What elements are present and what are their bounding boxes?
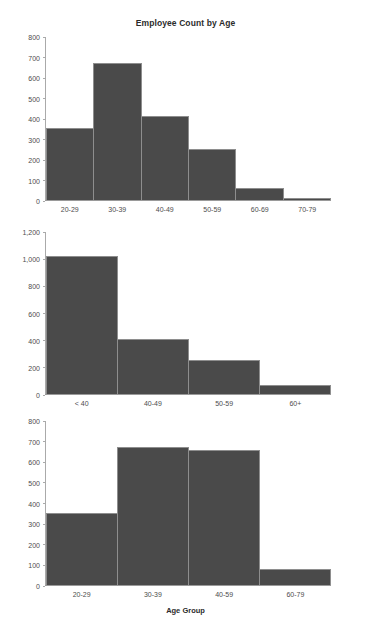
chart-2-x-tick-label: 60+ [260,400,331,407]
chart-3-bar-30-39 [117,447,189,585]
chart-2-x-tick-label: < 40 [46,400,117,407]
chart-1-bar-50-59 [188,149,236,200]
chart-1-bar-60-69 [235,188,283,200]
chart-3-x-tick-labels: 20-2930-3940-5960-79 [46,591,331,598]
chart-1-bars [46,37,331,200]
chart-1-title: Employee Count by Age [0,18,371,28]
chart-2-x-axis [45,394,331,395]
chart-3-x-tick-label: 20-29 [46,591,117,598]
chart-1-y-tick-label: 500 [5,95,45,102]
chart-2-bar-< 40 [46,256,118,394]
chart-2-y-tick-label: 400 [5,337,45,344]
chart-3-bars [46,421,331,585]
chart-1-x-tick-label: 30-39 [94,206,142,213]
chart-2-y-tick-label: 200 [5,364,45,371]
chart-1-y-tick-label: 200 [5,157,45,164]
chart-2-bar-60+ [259,385,331,394]
chart-1-x-tick-label: 40-49 [141,206,189,213]
chart-1-x-tick-label: 70-79 [284,206,332,213]
chart-2-y-tick-label: 1,000 [5,256,45,263]
chart-3-y-tick-label: 300 [5,521,45,528]
chart-1-plot-area: 0100200300400500600700800 [45,37,331,201]
chart-3-y-tick-label: 400 [5,500,45,507]
chart-1-y-tick-label: 700 [5,54,45,61]
chart-1-x-tick-labels: 20-2930-3940-4950-5960-6970-79 [46,206,331,213]
chart-2-y-tick-label: 600 [5,310,45,317]
chart-3-y-tick-label: 600 [5,459,45,466]
chart-3-bar-40-59 [188,450,260,585]
chart-3-x-tick-label: 60-79 [260,591,331,598]
chart-1-bar-70-79 [283,198,331,200]
chart-1-bar-40-49 [141,116,189,200]
chart-1-bar-20-29 [46,128,94,200]
chart-1-x-tick-label: 50-59 [189,206,237,213]
chart-1-x-axis [45,200,331,201]
chart-2-bars [46,232,331,394]
chart-2-x-tick-label: 40-49 [117,400,188,407]
chart-1-y-tick-label: 100 [5,177,45,184]
chart-2-bar-40-49 [117,339,189,394]
chart-2-plot-area: 02004006008001,0001,200 [45,232,331,395]
chart-2-bar-50-59 [188,360,260,394]
chart-2-x-tick-label: 50-59 [189,400,260,407]
chart-1-y-tick-label: 400 [5,116,45,123]
chart-1-y-tick-label: 300 [5,136,45,143]
chart-2-y-tick-label: 1,200 [5,229,45,236]
chart-2-x-tick-labels: < 4040-4950-5960+ [46,400,331,407]
chart-2-y-tick-label: 0 [5,392,45,399]
chart-3-bar-20-29 [46,513,118,585]
chart-3-bar-60-79 [259,569,331,585]
chart-3-y-tick-label: 800 [5,418,45,425]
chart-3-y-tick-label: 0 [5,583,45,590]
chart-3-x-axis [45,585,331,586]
chart-2-y-tick-label: 800 [5,283,45,290]
chart-page: Employee Count by Age 010020030040050060… [0,0,371,642]
chart-3-x-tick-label: 30-39 [117,591,188,598]
chart-3-x-tick-label: 40-59 [189,591,260,598]
chart-3-y-tick-label: 100 [5,562,45,569]
chart-1-x-tick-label: 60-69 [236,206,284,213]
chart-3-y-tick-label: 500 [5,479,45,486]
chart-1-y-tick-label: 800 [5,34,45,41]
chart-3-x-axis-title: Age Group [0,606,371,615]
chart-1-bar-30-39 [93,63,141,200]
chart-3-y-tick-label: 200 [5,541,45,548]
chart-1-y-tick-label: 0 [5,198,45,205]
chart-3-y-tick-label: 700 [5,438,45,445]
chart-1-y-tick-label: 600 [5,75,45,82]
chart-3-plot-area: 0100200300400500600700800 [45,421,331,586]
chart-1-x-tick-label: 20-29 [46,206,94,213]
